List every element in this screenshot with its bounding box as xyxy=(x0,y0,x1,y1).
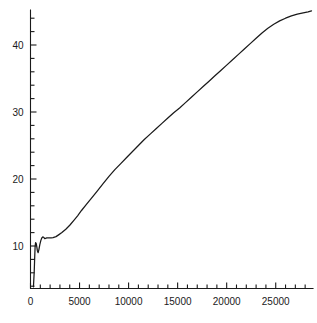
series-line xyxy=(33,11,311,287)
chart-figure: 0500010000150002000025000 10203040 xyxy=(0,0,317,323)
y-tick-label: 10 xyxy=(12,241,24,252)
y-tick-label: 40 xyxy=(12,40,24,51)
line-chart: 0500010000150002000025000 10203040 xyxy=(0,0,317,323)
x-tick-label: 20000 xyxy=(213,296,241,307)
x-axis-tick-labels: 0500010000150002000025000 xyxy=(28,296,290,307)
x-tick-label: 25000 xyxy=(262,296,290,307)
x-axis-ticks xyxy=(31,283,306,289)
y-axis-tick-labels: 10203040 xyxy=(12,40,24,252)
x-tick-label: 10000 xyxy=(115,296,143,307)
y-tick-label: 20 xyxy=(12,174,24,185)
x-tick-label: 15000 xyxy=(164,296,192,307)
chart-axes xyxy=(31,10,314,289)
data-series-layer xyxy=(33,11,311,287)
x-tick-label: 5000 xyxy=(68,296,91,307)
y-tick-label: 30 xyxy=(12,107,24,118)
x-tick-label: 0 xyxy=(28,296,34,307)
